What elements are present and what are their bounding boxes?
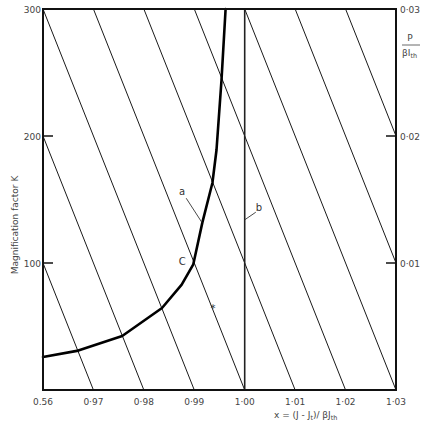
- stray-mark: *: [210, 303, 215, 314]
- constant-power-line: [43, 136, 144, 390]
- x-tick-label: 1·03: [386, 397, 406, 407]
- y-tick-label: 100: [24, 259, 41, 269]
- curve-label-a: a: [179, 186, 185, 197]
- x-tick-label: 0·99: [184, 397, 204, 407]
- y-axis-title: Magnification factor K: [10, 175, 20, 275]
- curve-a: [43, 9, 226, 357]
- chart-figure: 0.560·970·980·991·001·011·021·0310020030…: [0, 0, 427, 424]
- y2-tick-label: 0·03: [400, 5, 420, 15]
- y2-tick-label: 0·01: [400, 259, 420, 269]
- constant-power-line: [43, 263, 93, 390]
- constant-power-line: [194, 9, 345, 390]
- x-axis-title: x = (J - Jt)/ βJth: [274, 410, 337, 422]
- y-tick-label: 300: [24, 5, 41, 15]
- x-axis-title-main: x = (J - J: [274, 410, 310, 420]
- x-tick-label: 0·97: [83, 397, 103, 407]
- y-tick-label: 200: [24, 132, 41, 142]
- curve-label-c: C: [179, 256, 186, 267]
- curve-label-b: b: [256, 202, 262, 213]
- x-axis-title-sub2: th: [331, 414, 338, 422]
- x-tick-label: 1·01: [285, 397, 305, 407]
- svg-text:x = (J - Jt)/ βJth: x = (J - Jt)/ βJth: [274, 410, 337, 422]
- constant-power-lines: [43, 9, 396, 390]
- x-tick-label: 1·02: [336, 397, 356, 407]
- constant-power-line: [43, 9, 194, 390]
- label-leader-a: [186, 198, 202, 222]
- x-tick-label: 0·98: [134, 397, 154, 407]
- constant-power-line: [144, 9, 295, 390]
- label-leader-b: [245, 212, 256, 220]
- constant-power-line: [295, 9, 396, 263]
- constant-power-line: [245, 9, 396, 390]
- series-layer: [43, 9, 245, 390]
- annotations: abC*: [179, 186, 262, 314]
- x-tick-label: 0.56: [33, 397, 53, 407]
- y2-axis-title-denominator-sub: th: [410, 52, 417, 60]
- y2-axis-title-denominator: βI: [402, 48, 410, 58]
- x-tick-label: 1·00: [235, 397, 255, 407]
- y2-axis-title-numerator: P: [407, 33, 413, 43]
- svg-text:βIth: βIth: [402, 48, 417, 60]
- y2-axis-title: P βIth: [402, 33, 420, 60]
- constant-power-line: [346, 9, 396, 136]
- y2-tick-label: 0·02: [400, 132, 420, 142]
- x-axis-title-mid: )/ βJ: [313, 410, 331, 420]
- chart-plot: 0.560·970·980·991·001·011·021·0310020030…: [0, 0, 427, 424]
